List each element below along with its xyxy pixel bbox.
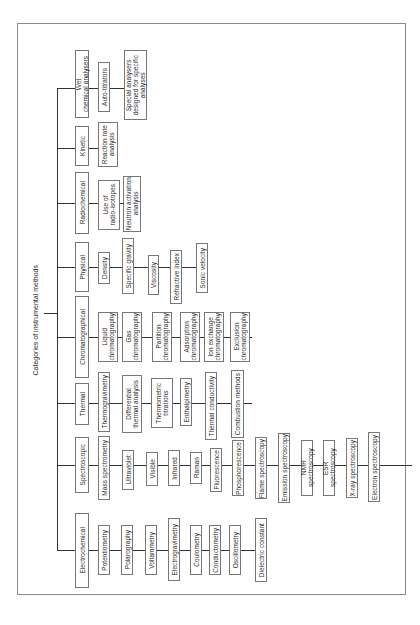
method-box: Specific gravity [122, 238, 134, 294]
method-box: Electron spectroscopy [368, 432, 380, 502]
method-box: Polarography [121, 525, 133, 575]
method-box: Emission spectroscopy [278, 433, 290, 503]
method-box: Sonic velocity [196, 243, 208, 293]
method-box: Mass spectrometry [98, 436, 110, 500]
method-box: Oscillometry [229, 525, 241, 575]
method-box: Electrogravimetry [168, 518, 180, 581]
method-box: Enthalpimetry [180, 378, 192, 426]
method-box: Viscosity [148, 255, 159, 295]
method-box: Exclusion chromatography [230, 312, 250, 362]
method-box: Gas chromatography [122, 312, 142, 362]
trunk-line [57, 88, 58, 551]
method-box: Special analysers designed for specific … [124, 50, 147, 120]
method-box: Raman [190, 452, 202, 484]
method-box: Coulometry [190, 525, 202, 575]
method-box: Differential thermal analysis [122, 375, 142, 433]
method-box: Reaction rate analysis [98, 122, 118, 167]
method-box: X-ray spectroscopy [346, 438, 358, 498]
category-physical: Physical [75, 242, 89, 292]
method-box: Phosphorescence [232, 440, 244, 496]
method-box: Adsorption chromatography [180, 312, 200, 362]
category-spectroscopic: Spectroscopic [75, 437, 89, 493]
method-box: Thermometric titrations [151, 378, 173, 428]
category-kinetic: Kinetic [75, 126, 89, 166]
category-electrochemical: Electrochemical [75, 513, 89, 588]
method-box: Combustion methods [231, 370, 244, 438]
method-box: Dielectric constant [255, 518, 267, 582]
method-box: Voltammetry [145, 525, 157, 575]
method-box: Use of radio-isotopes [98, 180, 120, 230]
method-box: Liquid chromatography [98, 312, 118, 362]
category-radiochemical: Radiochemical [75, 172, 89, 234]
method-box: Potentiometry [98, 525, 110, 575]
method-box: Auto-titrators [98, 62, 110, 112]
method-box: Infrared [168, 450, 180, 486]
root-connector [44, 313, 57, 314]
method-box: Thermogravimetry [98, 372, 110, 432]
category-wet-chemical: Wet chemical analysers [75, 50, 89, 118]
method-box: Conductometry [209, 525, 221, 575]
method-box: Fluorescence [210, 448, 222, 492]
method-box: Neutron activation analysis [123, 176, 141, 232]
method-box: Refractive index [170, 250, 182, 304]
method-box: NMR spectroscopy [301, 440, 313, 496]
diagram-title: Categories of instrumental methods [30, 230, 40, 410]
category-thermal: Thermal [75, 383, 89, 425]
method-box: ESR spectroscopy [323, 440, 335, 496]
method-box: Flame spectroscopy [255, 437, 267, 499]
method-box: Visible [146, 452, 158, 486]
method-box: Density [98, 252, 110, 284]
category-chromatographical: Chromatographical [75, 296, 89, 378]
method-box: Ultraviolet [122, 450, 134, 490]
method-box: Thermal conductivity [205, 372, 217, 440]
method-box: Ion exchange chromatography [204, 312, 224, 362]
method-box: Partition chromatography [152, 312, 172, 362]
